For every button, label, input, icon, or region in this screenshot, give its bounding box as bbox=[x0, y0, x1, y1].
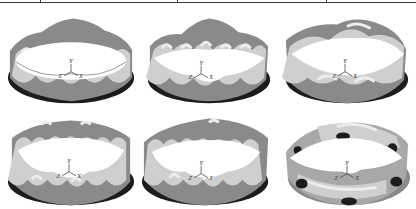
svg-text:X: X bbox=[352, 72, 358, 79]
column-tick bbox=[326, 0, 327, 3]
svg-text:Z: Z bbox=[188, 73, 192, 80]
svg-text:X: X bbox=[78, 72, 84, 79]
svg-text:Z: Z bbox=[56, 172, 60, 179]
svg-text:Z: Z bbox=[334, 174, 338, 181]
mode-shape-panel-b: Y Z X bbox=[140, 6, 278, 108]
top-table-rule bbox=[0, 2, 416, 3]
mode-shape-panel-e: Y Z X bbox=[140, 108, 278, 209]
svg-text:X: X bbox=[354, 174, 360, 181]
svg-text:X: X bbox=[208, 73, 214, 80]
svg-text:Z: Z bbox=[332, 72, 336, 79]
mode-shape-panel-d: Y Z X bbox=[2, 108, 140, 209]
shell-mode-shape: Y Z X bbox=[140, 108, 278, 209]
svg-text:X: X bbox=[208, 174, 214, 181]
shell-mode-shape: Y Z X bbox=[140, 6, 278, 108]
svg-text:X: X bbox=[76, 172, 82, 179]
mode-shape-panel-f: Y Z X bbox=[278, 108, 416, 209]
shell-mode-shape: Y Z X bbox=[278, 6, 416, 108]
shell-mode-shape: Y Z X bbox=[278, 108, 416, 209]
svg-text:Z: Z bbox=[58, 72, 62, 79]
shell-mode-shape: Y Z X bbox=[2, 108, 140, 209]
column-tick bbox=[177, 0, 178, 3]
mode-shape-panel-a: Y Z X bbox=[2, 6, 140, 108]
shell-mode-shape: Y Z X bbox=[2, 6, 140, 108]
column-tick bbox=[40, 0, 41, 3]
svg-text:Z: Z bbox=[188, 174, 192, 181]
mode-shape-panel-c: Y Z X bbox=[278, 6, 416, 108]
